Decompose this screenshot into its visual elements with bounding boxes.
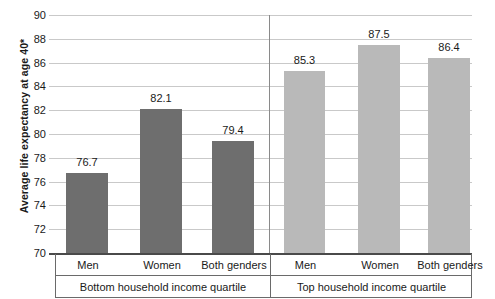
y-tick-label: 84 bbox=[34, 81, 46, 92]
gridline bbox=[49, 39, 472, 40]
category-label: Men bbox=[77, 259, 98, 271]
bar-value-label: 87.5 bbox=[368, 28, 389, 40]
y-tick-label: 88 bbox=[34, 33, 46, 44]
y-tick-label: 76 bbox=[34, 176, 46, 187]
plot-area: 7072747678808284868890 76.782.179.485.38… bbox=[55, 15, 472, 253]
bar: 76.7 bbox=[66, 173, 108, 253]
y-tick-label: 70 bbox=[34, 248, 46, 259]
bar: 82.1 bbox=[140, 109, 182, 253]
gridline bbox=[49, 134, 472, 135]
bar: 79.4 bbox=[212, 141, 254, 253]
category-label-row: MenWomenBoth gendersMenWomenBoth genders bbox=[56, 254, 471, 276]
gridline bbox=[49, 182, 472, 183]
bar-value-label: 79.4 bbox=[222, 124, 243, 136]
y-tick-label: 82 bbox=[34, 105, 46, 116]
y-tick-label: 72 bbox=[34, 224, 46, 235]
bar-chart: Average life expectancy at age 40* 70727… bbox=[0, 0, 495, 299]
gridline bbox=[49, 63, 472, 64]
gridline bbox=[49, 15, 472, 16]
category-label: Both genders bbox=[201, 259, 266, 271]
gridline bbox=[49, 205, 472, 206]
category-label-box: MenWomenBoth gendersMenWomenBoth genders… bbox=[55, 254, 472, 298]
bar-value-label: 85.3 bbox=[294, 54, 315, 66]
y-tick-label: 90 bbox=[34, 10, 46, 21]
label-box-divider bbox=[270, 254, 271, 297]
y-tick-label: 74 bbox=[34, 200, 46, 211]
bar-value-label: 76.7 bbox=[76, 156, 97, 168]
y-tick-label: 86 bbox=[34, 57, 46, 68]
group-divider bbox=[269, 15, 270, 253]
gridline bbox=[49, 110, 472, 111]
bar: 87.5 bbox=[358, 45, 400, 253]
category-label: Women bbox=[143, 259, 181, 271]
y-tick-label: 80 bbox=[34, 129, 46, 140]
bar: 85.3 bbox=[284, 71, 325, 253]
group-label: Bottom household income quartile bbox=[80, 281, 246, 293]
category-label: Women bbox=[361, 259, 399, 271]
group-label-row: Bottom household income quartileTop hous… bbox=[56, 276, 471, 298]
gridline bbox=[49, 86, 472, 87]
category-label: Men bbox=[295, 259, 316, 271]
gridline bbox=[49, 158, 472, 159]
bar-value-label: 82.1 bbox=[150, 92, 171, 104]
group-label: Top household income quartile bbox=[297, 281, 446, 293]
y-axis-title: Average life expectancy at age 40* bbox=[18, 6, 30, 246]
bar: 86.4 bbox=[428, 58, 470, 253]
gridline bbox=[49, 229, 472, 230]
category-label: Both genders bbox=[417, 259, 482, 271]
y-tick-label: 78 bbox=[34, 152, 46, 163]
bar-value-label: 86.4 bbox=[438, 41, 459, 53]
